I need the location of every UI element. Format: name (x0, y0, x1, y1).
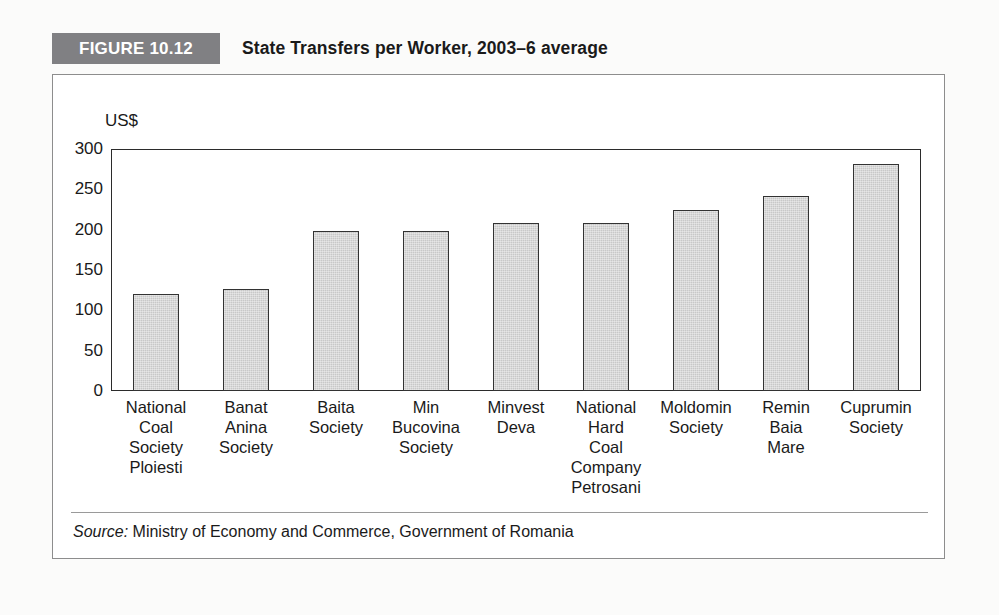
x-axis-category-label: BaitaSociety (291, 397, 381, 497)
bar-slot (201, 149, 291, 391)
x-axis-label-line: Ploiesti (111, 457, 201, 477)
y-axis-tick-label: 100 (61, 300, 103, 320)
x-axis-label-line: Petrosani (561, 477, 651, 497)
source-divider (71, 512, 928, 513)
x-axis-label-line: Minvest (471, 397, 561, 417)
x-axis-category-label: CupruminSociety (831, 397, 921, 497)
bar-series (111, 149, 921, 391)
bar-slot (831, 149, 921, 391)
bar-slot (381, 149, 471, 391)
x-axis-label-line: Anina (201, 417, 291, 437)
y-axis-tick-label: 200 (61, 220, 103, 240)
bar-slot (471, 149, 561, 391)
x-axis-label-line: Baita (291, 397, 381, 417)
x-axis-label-line: Deva (471, 417, 561, 437)
figure-header: FIGURE 10.12 State Transfers per Worker,… (52, 33, 608, 64)
source-label: Source: (73, 523, 128, 540)
figure-number-badge: FIGURE 10.12 (52, 33, 220, 64)
x-axis-label-line: Company (561, 457, 651, 477)
bar (493, 223, 539, 391)
x-axis-label-line: Coal (561, 437, 651, 457)
bar (223, 289, 269, 391)
x-axis-label-line: Society (111, 437, 201, 457)
x-axis-label-line: Society (291, 417, 381, 437)
bar-slot (111, 149, 201, 391)
x-axis-label-line: Min (381, 397, 471, 417)
y-axis-tick-label: 300 (61, 139, 103, 159)
x-axis-label-line: Society (381, 437, 471, 457)
y-axis-tick-label: 150 (61, 260, 103, 280)
x-axis-label-line: Coal (111, 417, 201, 437)
bar (853, 164, 899, 391)
source-note: Source: Ministry of Economy and Commerce… (73, 523, 574, 541)
x-axis-label-line: Society (831, 417, 921, 437)
x-axis-category-label: NationalCoalSocietyPloiesti (111, 397, 201, 497)
bar (313, 231, 359, 391)
y-axis-tick-labels: 300250200150100500 (53, 149, 103, 391)
bar-slot (291, 149, 381, 391)
x-axis-category-label: ReminBaiaMare (741, 397, 831, 497)
figure-page: FIGURE 10.12 State Transfers per Worker,… (0, 0, 999, 615)
x-axis-category-labels: NationalCoalSocietyPloiestiBanatAninaSoc… (111, 397, 921, 497)
x-axis-category-label: NationalHardCoalCompanyPetrosani (561, 397, 651, 497)
x-axis-label-line: Banat (201, 397, 291, 417)
bar-slot (561, 149, 651, 391)
x-axis-label-line: Moldomin (651, 397, 741, 417)
x-axis-label-line: Society (651, 417, 741, 437)
x-axis-label-line: Remin (741, 397, 831, 417)
figure-title: State Transfers per Worker, 2003–6 avera… (242, 33, 608, 64)
bar (403, 231, 449, 391)
bar-slot (741, 149, 831, 391)
x-axis-category-label: MinBucovinaSociety (381, 397, 471, 497)
x-axis-label-line: Baia (741, 417, 831, 437)
bar (673, 210, 719, 391)
source-value: Ministry of Economy and Commerce, Govern… (128, 523, 574, 540)
y-axis-unit-label: US$ (105, 111, 138, 131)
x-axis-category-label: MoldominSociety (651, 397, 741, 497)
x-axis-label-line: National (111, 397, 201, 417)
y-axis-tick-label: 250 (61, 179, 103, 199)
x-axis-label-line: Bucovina (381, 417, 471, 437)
y-axis-tick-label: 0 (61, 381, 103, 401)
bar (133, 294, 179, 391)
x-axis-label-line: National (561, 397, 651, 417)
bar (763, 196, 809, 391)
x-axis-category-label: BanatAninaSociety (201, 397, 291, 497)
y-axis-tick-label: 50 (61, 341, 103, 361)
x-axis-label-line: Society (201, 437, 291, 457)
x-axis-label-line: Hard (561, 417, 651, 437)
x-axis-category-label: MinvestDeva (471, 397, 561, 497)
bar-slot (651, 149, 741, 391)
x-axis-label-line: Mare (741, 437, 831, 457)
figure-frame: US$ 300250200150100500 NationalCoalSocie… (52, 74, 945, 559)
chart-area: US$ 300250200150100500 NationalCoalSocie… (53, 75, 946, 560)
bar (583, 223, 629, 391)
x-axis-label-line: Cuprumin (831, 397, 921, 417)
